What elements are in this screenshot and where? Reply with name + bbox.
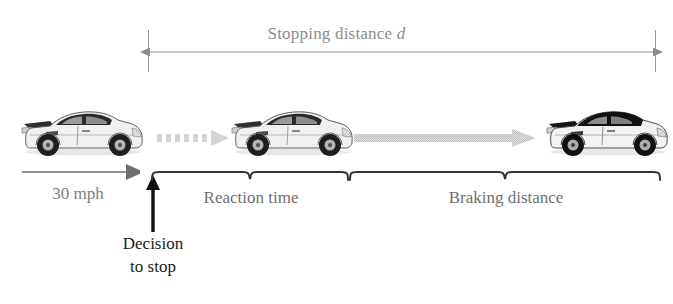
car-icon-reacting (230, 102, 356, 158)
speed-label: 30 mph (8, 184, 148, 204)
stopping-distance-diagram: Stopping distance d (0, 0, 673, 304)
stopping-distance-dimension: Stopping distance d (0, 0, 673, 80)
stopping-distance-label-text: Stopping distance (268, 24, 393, 43)
car-icon-start (20, 102, 146, 158)
segment-label-braking-distance: Braking distance (350, 188, 662, 208)
motion-arrow-reaction (155, 126, 231, 150)
decision-caption-line2: to stop (92, 255, 214, 278)
segment-label-reaction-time: Reaction time (152, 188, 350, 208)
brace-reaction-time (150, 166, 350, 182)
motion-arrow-braking (352, 126, 538, 150)
speed-arrow (18, 164, 140, 180)
stopping-distance-label: Stopping distance d (0, 24, 673, 44)
brace-braking-distance (348, 166, 662, 182)
decision-to-stop-caption: Decision to stop (92, 232, 214, 278)
car-icon-stopped (545, 102, 671, 158)
stopping-distance-variable: d (397, 24, 406, 43)
decision-caption-line1: Decision (92, 232, 214, 255)
